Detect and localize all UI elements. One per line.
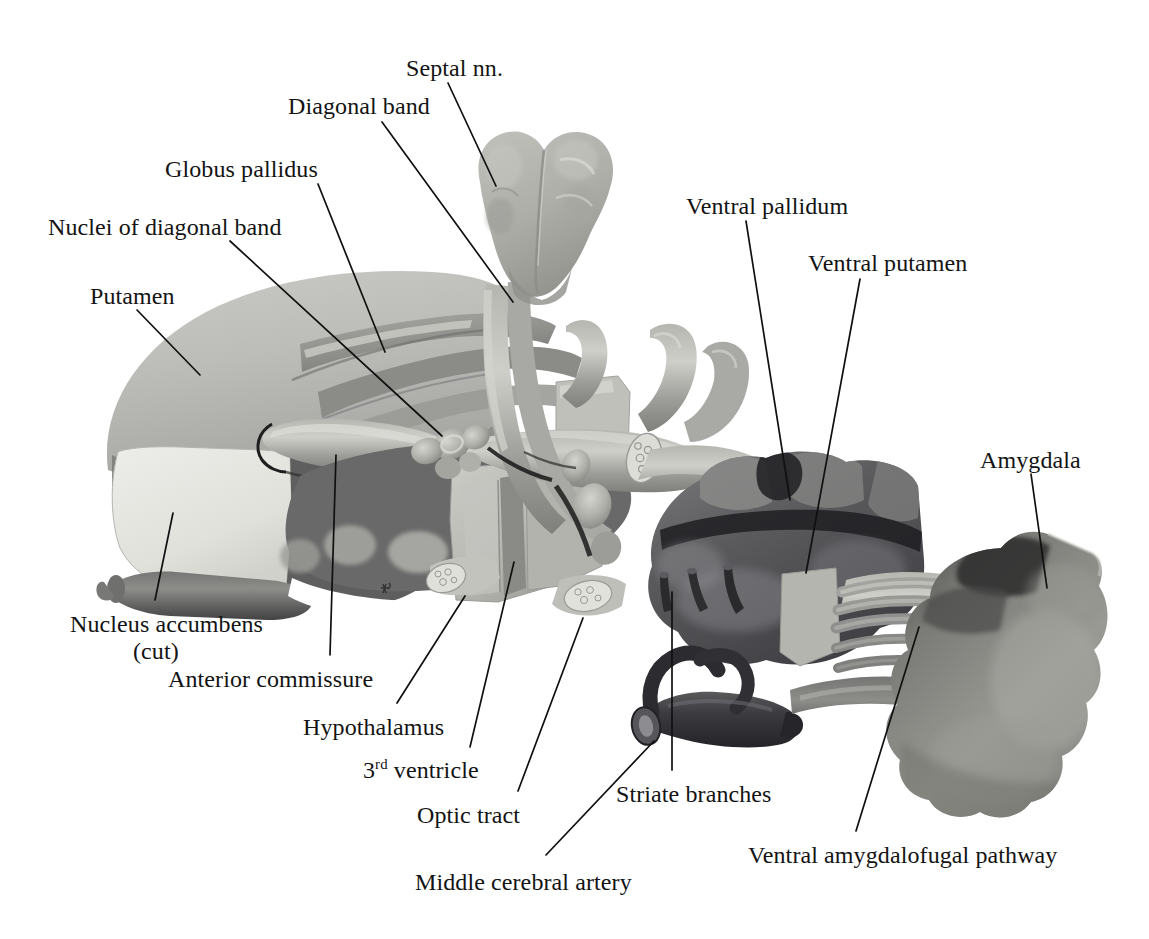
label-hypothalamus: Hypothalamus [303, 714, 444, 741]
septal-nuclei [478, 131, 613, 305]
label-ventral-amygdalofugal-pathway: Ventral amygdalofugal pathway [748, 842, 1057, 869]
label-putamen: Putamen [90, 283, 175, 310]
label-striate-branches: Striate branches [616, 781, 772, 808]
label-diagonal-band: Diagonal band [288, 93, 430, 120]
label-nucleus-accumbens: Nucleus accumbens [70, 611, 263, 638]
anatomical-figure: Septal nn. Diagonal band Globus pallidus… [0, 0, 1149, 939]
label-optic-tract: Optic tract [417, 802, 520, 829]
brain-illustration [0, 0, 1149, 939]
label-septal-nn: Septal nn. [406, 55, 503, 82]
label-anterior-commissure: Anterior commissure [168, 666, 373, 693]
label-third-ventricle: 3rd ventricle [363, 757, 479, 784]
label-ventral-pallidum: Ventral pallidum [686, 193, 848, 220]
label-nucleus-accumbens-cut: (cut) [133, 638, 179, 665]
third-ventricle-ordinal: rd [375, 756, 388, 772]
label-globus-pallidus: Globus pallidus [165, 156, 318, 183]
label-amygdala: Amygdala [980, 447, 1081, 474]
label-ventral-putamen: Ventral putamen [808, 250, 967, 277]
third-ventricle-number: 3 [363, 757, 375, 783]
label-middle-cerebral-artery: Middle cerebral artery [415, 869, 632, 896]
middle-cerebral-artery [628, 653, 803, 747]
leader-line-optic-tract [518, 618, 583, 791]
label-nuclei-of-diagonal-band: Nuclei of diagonal band [48, 214, 282, 241]
third-ventricle-word: ventricle [388, 757, 479, 783]
